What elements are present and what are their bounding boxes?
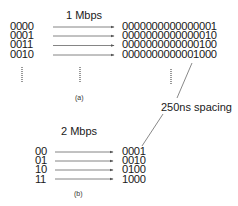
panel-a-arrows [53,27,114,55]
continuation-dots [22,67,171,85]
annotation-leader-lines [142,63,192,146]
panel-b-arrows [55,152,113,179]
leader-line-top [177,63,192,98]
diagram-lines [0,0,238,206]
leader-line-bottom [142,114,163,146]
